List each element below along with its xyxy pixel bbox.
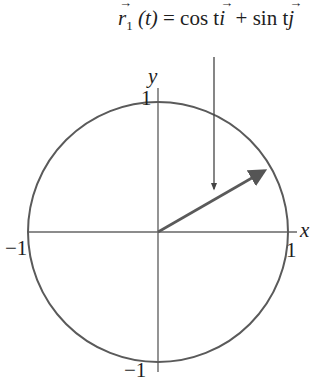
x-tick-pos-1: 1: [286, 238, 297, 263]
r-vector-symbol: →r: [118, 6, 126, 31]
y-tick-neg-1: −1: [124, 358, 146, 383]
vector-function-label: →r1 (t) = cos t→i + sin t→j: [118, 6, 294, 34]
r-subscript: 1: [126, 18, 133, 33]
x-axis-label: x: [300, 218, 309, 243]
x-tick-neg-1: −1: [5, 236, 27, 261]
parameter: (t): [138, 6, 158, 30]
j-unit-vector: →j: [288, 6, 294, 31]
unit-circle-diagram: [0, 0, 320, 387]
i-unit-vector: →i: [219, 6, 225, 31]
sin-term: sin t: [253, 6, 289, 30]
y-tick-pos-1: 1: [141, 86, 152, 111]
cos-term: cos t: [180, 6, 219, 30]
equals-sign: =: [163, 6, 175, 30]
plus-sign: +: [236, 6, 248, 30]
position-vector-arrow: [158, 171, 264, 232]
